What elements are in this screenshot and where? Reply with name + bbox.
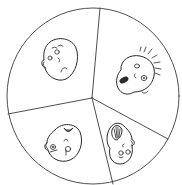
sad-face-icon [42, 39, 78, 81]
laughing-face-icon [107, 123, 134, 164]
outer-circle [7, 8, 179, 184]
scared-face-icon [117, 47, 161, 94]
emotion-wheel-diagram [0, 0, 182, 185]
divider-top [92, 8, 100, 98]
divider-left [8, 98, 92, 114]
angry-face-icon [45, 125, 82, 162]
